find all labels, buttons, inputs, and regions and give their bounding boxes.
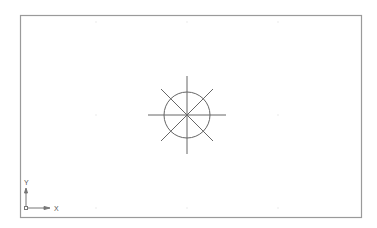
ucs-y-label: Y (24, 179, 29, 186)
viewport-border (21, 16, 362, 218)
ucs-x-label: X (54, 205, 59, 212)
drawing-canvas[interactable]: Y X (0, 0, 377, 228)
